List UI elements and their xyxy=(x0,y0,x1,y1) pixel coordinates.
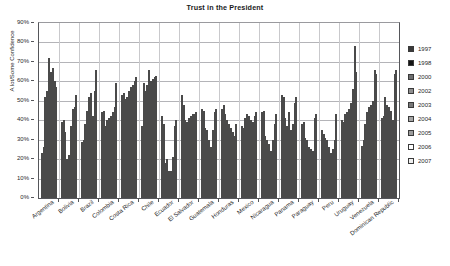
y-tick-mark xyxy=(31,178,34,179)
x-tick-label: Brazil xyxy=(79,199,95,213)
bar-group xyxy=(279,23,299,198)
bar-group xyxy=(199,23,219,198)
x-tick-mark xyxy=(238,199,239,202)
category-separator xyxy=(279,23,280,198)
legend-label: 2000 xyxy=(418,74,431,80)
x-tick-mark xyxy=(218,199,219,202)
x-tick-mark xyxy=(358,199,359,202)
legend-label: 2003 xyxy=(418,102,431,108)
legend-label: 2005 xyxy=(418,130,431,136)
legend-item[interactable]: 2003 xyxy=(408,98,450,112)
bar xyxy=(155,76,157,199)
x-tick-mark xyxy=(278,199,279,202)
y-tick-mark xyxy=(31,158,34,159)
bar xyxy=(255,112,257,198)
x-tick-label: Peru xyxy=(321,199,335,212)
legend-item[interactable]: 1998 xyxy=(408,56,450,70)
y-axis: 0%10%20%30%40%50%60%70%80%90% xyxy=(0,22,34,199)
x-tick-mark xyxy=(158,199,159,202)
bar-group xyxy=(319,23,339,198)
x-tick-label: Chile xyxy=(140,199,154,212)
bar xyxy=(315,114,317,198)
bars-layer xyxy=(39,23,399,198)
y-tick-label: 90% xyxy=(17,19,29,25)
legend-item[interactable]: 2005 xyxy=(408,126,450,140)
bar xyxy=(275,114,277,198)
legend-swatch-icon xyxy=(408,88,414,94)
chart-container: Trust in the President 0%10%20%30%40%50%… xyxy=(0,0,450,266)
category-separator xyxy=(79,23,80,198)
legend-swatch-icon xyxy=(408,116,414,122)
y-tick-mark xyxy=(31,119,34,120)
legend-swatch-icon xyxy=(408,46,414,52)
x-tick-mark xyxy=(258,199,259,202)
bar-group xyxy=(219,23,239,198)
y-tick-mark xyxy=(31,100,34,101)
y-tick-mark xyxy=(31,41,34,42)
x-tick-mark xyxy=(178,199,179,202)
x-tick-mark xyxy=(58,199,59,202)
bar xyxy=(295,97,297,198)
bar xyxy=(95,70,97,198)
bar xyxy=(355,72,357,198)
bar xyxy=(215,109,217,198)
category-separator xyxy=(259,23,260,198)
legend: 199719982000200220032004200520062007 xyxy=(408,42,450,168)
legend-label: 2006 xyxy=(418,144,431,150)
bar xyxy=(195,112,197,198)
legend-item[interactable]: 1997 xyxy=(408,42,450,56)
category-separator xyxy=(299,23,300,198)
bar-group xyxy=(339,23,359,198)
y-tick-mark xyxy=(31,197,34,198)
bar-group xyxy=(39,23,59,198)
x-tick-mark xyxy=(318,199,319,202)
legend-swatch-icon xyxy=(408,74,414,80)
legend-item[interactable]: 2002 xyxy=(408,84,450,98)
category-separator xyxy=(119,23,120,198)
bar-group xyxy=(179,23,199,198)
x-tick-label: Paraguay xyxy=(291,199,315,220)
category-separator xyxy=(159,23,160,198)
category-separator xyxy=(359,23,360,198)
bar xyxy=(395,70,397,198)
y-axis-title: A lot/Some Confidence xyxy=(9,6,15,116)
y-tick-label: 60% xyxy=(17,77,29,83)
category-separator xyxy=(139,23,140,198)
x-tick-mark xyxy=(338,199,339,202)
y-tick-mark xyxy=(31,139,34,140)
bar xyxy=(335,114,337,198)
legend-item[interactable]: 2006 xyxy=(408,140,450,154)
bar xyxy=(175,120,177,198)
category-separator xyxy=(179,23,180,198)
legend-label: 1997 xyxy=(418,46,431,52)
legend-label: 2004 xyxy=(418,116,431,122)
y-tick-label: 50% xyxy=(17,97,29,103)
legend-item[interactable]: 2007 xyxy=(408,154,450,168)
x-tick-mark xyxy=(398,199,399,202)
bar-group xyxy=(379,23,399,198)
legend-swatch-icon xyxy=(408,130,414,136)
legend-swatch-icon xyxy=(408,144,414,150)
category-separator xyxy=(59,23,60,198)
legend-item[interactable]: 2000 xyxy=(408,70,450,84)
x-tick-mark xyxy=(138,199,139,202)
plot-area xyxy=(38,22,400,199)
bar-group xyxy=(259,23,279,198)
y-tick-mark xyxy=(31,61,34,62)
category-separator xyxy=(99,23,100,198)
chart-title: Trust in the President xyxy=(0,3,450,12)
category-separator xyxy=(379,23,380,198)
y-tick-label: 80% xyxy=(17,38,29,44)
bar-group xyxy=(119,23,139,198)
bar-group xyxy=(159,23,179,198)
category-separator xyxy=(339,23,340,198)
y-tick-label: 30% xyxy=(17,136,29,142)
bar-group xyxy=(239,23,259,198)
bar xyxy=(75,95,77,198)
bar xyxy=(235,124,237,198)
legend-item[interactable]: 2004 xyxy=(408,112,450,126)
category-separator xyxy=(319,23,320,198)
category-separator xyxy=(199,23,200,198)
y-tick-label: 70% xyxy=(17,58,29,64)
x-tick-mark xyxy=(378,199,379,202)
